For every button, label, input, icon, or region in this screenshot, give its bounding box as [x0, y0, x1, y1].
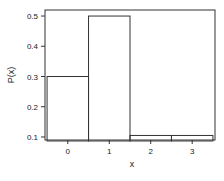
plot-area [45, 10, 215, 141]
y-tick-label: 0.2 [27, 103, 39, 112]
y-tick-label: 0.4 [27, 42, 39, 51]
bar-1 [89, 16, 130, 141]
bar-0 [47, 77, 88, 141]
y-tick-label: 0.3 [27, 73, 39, 82]
y-axis-label: P(x) [6, 67, 16, 84]
chart: 0.10.20.30.40.5 0123 P(x) x [0, 0, 224, 181]
x-tick-label: 2 [149, 147, 154, 156]
y-axis: 0.10.20.30.40.5 [27, 12, 45, 142]
x-axis: 0123 [66, 140, 195, 156]
y-tick-label: 0.5 [27, 12, 39, 21]
x-axis-label: x [130, 159, 135, 169]
y-tick-label: 0.1 [27, 133, 39, 142]
x-tick-label: 0 [66, 147, 71, 156]
x-tick-label: 3 [190, 147, 195, 156]
x-tick-label: 1 [107, 147, 112, 156]
